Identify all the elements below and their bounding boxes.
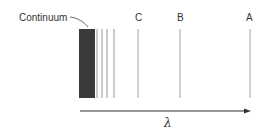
svg-text:C: C [135, 12, 142, 23]
series-limit-lines [97, 29, 114, 98]
lambda-axis-label: λ [163, 116, 172, 130]
spectral-line-a: A [246, 12, 253, 98]
svg-text:B: B [177, 12, 184, 23]
continuum-label: Continuum [19, 12, 67, 23]
spectral-line-b: B [177, 12, 184, 98]
continuum-leader-line [70, 17, 88, 27]
spectral-diagram: Continuum C B A λ [0, 0, 267, 135]
wavelength-axis-arrow [80, 109, 251, 114]
svg-text:A: A [246, 12, 253, 23]
spectral-line-c: C [135, 12, 142, 98]
continuum-block [79, 29, 95, 98]
